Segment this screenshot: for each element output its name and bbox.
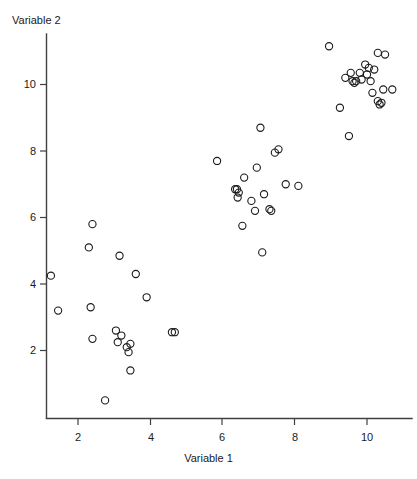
scatter-point: [248, 197, 255, 204]
scatter-point: [381, 51, 388, 58]
scatter-point: [295, 182, 302, 189]
scatter-point: [132, 270, 139, 277]
scatter-point: [259, 249, 266, 256]
scatter-point: [257, 124, 264, 131]
scatter-point: [87, 304, 94, 311]
scatter-point: [389, 86, 396, 93]
scatter-point: [118, 332, 125, 339]
scatter-point: [55, 307, 62, 314]
scatter-point: [213, 157, 220, 164]
scatter-point: [266, 206, 273, 213]
plot-canvas: [0, 0, 417, 479]
scatter-point: [234, 194, 241, 201]
x-axis: [47, 419, 413, 426]
scatter-point: [85, 244, 92, 251]
scatter-point: [116, 252, 123, 259]
scatter-point: [239, 222, 246, 229]
scatter-point: [260, 191, 267, 198]
scatter-point: [325, 43, 332, 50]
scatter-point: [89, 221, 96, 228]
scatter-point: [336, 104, 343, 111]
scatter-point: [363, 71, 370, 78]
scatter-point: [241, 174, 248, 181]
scatter-point: [351, 79, 358, 86]
scatter-point: [356, 69, 363, 76]
scatter-point: [374, 49, 381, 56]
scatter-point: [127, 367, 134, 374]
scatter-point: [282, 181, 289, 188]
scatter-point: [89, 335, 96, 342]
y-tick-marks: [40, 85, 47, 351]
scatter-point: [125, 349, 132, 356]
scatter-plot-figure: Variable 2 Variable 1 10 8 6 4 2 2 4 6 8…: [0, 0, 417, 479]
scatter-point: [143, 294, 150, 301]
scatter-point: [347, 69, 354, 76]
data-points-layer: [47, 43, 396, 404]
y-axis: [40, 34, 47, 418]
scatter-point: [251, 207, 258, 214]
scatter-point: [380, 86, 387, 93]
scatter-point: [47, 272, 54, 279]
x-tick-marks: [78, 419, 367, 426]
scatter-point: [101, 397, 108, 404]
scatter-point: [268, 207, 275, 214]
scatter-point: [114, 339, 121, 346]
scatter-point: [345, 132, 352, 139]
scatter-point: [367, 78, 374, 85]
scatter-point: [369, 89, 376, 96]
scatter-point: [253, 164, 260, 171]
